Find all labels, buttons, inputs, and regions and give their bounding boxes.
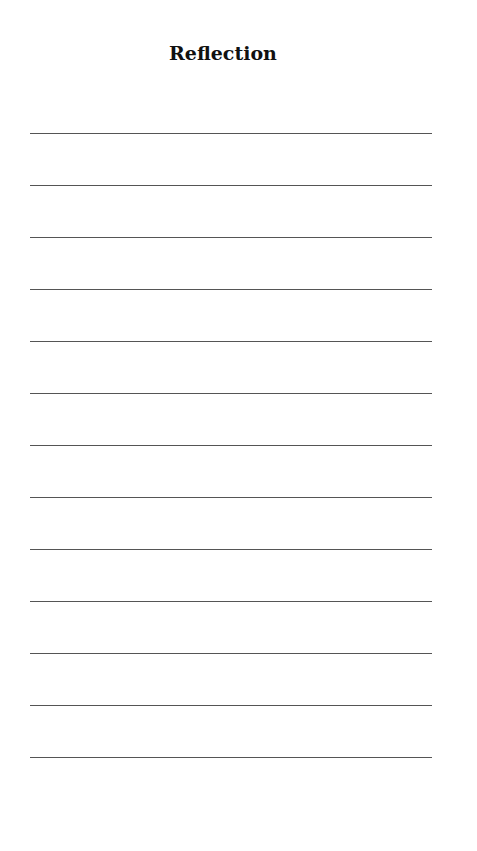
writing-line <box>30 653 432 654</box>
writing-line <box>30 341 432 342</box>
writing-line <box>30 757 432 758</box>
writing-line <box>30 705 432 706</box>
writing-lines <box>30 0 432 851</box>
writing-line <box>30 133 432 134</box>
writing-line <box>30 445 432 446</box>
writing-line <box>30 601 432 602</box>
writing-line <box>30 497 432 498</box>
writing-line <box>30 185 432 186</box>
writing-line <box>30 289 432 290</box>
writing-line <box>30 393 432 394</box>
writing-line <box>30 237 432 238</box>
writing-line <box>30 549 432 550</box>
